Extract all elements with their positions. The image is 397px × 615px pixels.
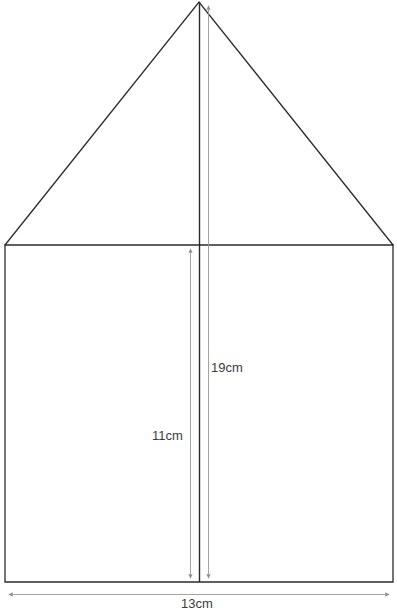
dimension-label-total-height: 19cm <box>211 361 243 375</box>
dimension-label-rectangle-height: 11cm <box>152 429 183 443</box>
geometry-figure-canvas: 19cm 11cm 13cm <box>0 0 397 615</box>
geometry-figure-svg <box>0 0 397 615</box>
dimension-label-base-width: 13cm <box>181 597 213 611</box>
